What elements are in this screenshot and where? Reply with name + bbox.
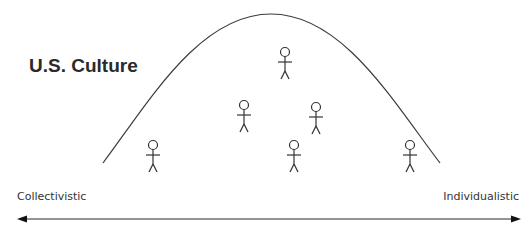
stick-figure-icon [403,141,417,173]
diagram-title: U.S. Culture [29,55,138,77]
stick-figure-icon [146,141,160,173]
axis-arrow [17,216,521,223]
axis-label-collectivistic: Collectivistic [17,190,86,203]
stick-figure-icon [278,48,292,80]
stick-figure-icon [309,103,323,135]
stick-figure-icon [287,141,301,173]
arrowhead-right-icon [511,216,521,223]
stick-figures [146,48,417,173]
arrowhead-left-icon [17,216,27,223]
axis-label-individualistic: Individualistic [443,190,519,203]
stick-figure-icon [237,101,251,133]
